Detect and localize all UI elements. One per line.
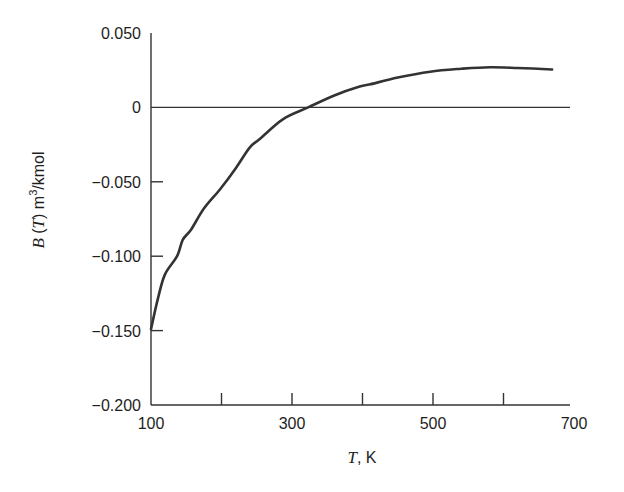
x-tick-label: 500 [420,415,447,432]
y-label-var: B [29,238,48,249]
y-axis-label: B (T) m3/kmol [27,151,48,248]
x-tick-labels: 100300500700 [138,415,588,432]
x-tick-label: 700 [561,415,588,432]
x-axis-label: T, K [347,448,376,467]
x-label-unit: , K [357,449,377,466]
y-tick-label: 0 [132,99,141,116]
y-tick-label: −0.050 [92,174,141,191]
y-ticks [151,182,163,331]
y-label-unit-rest: /kmol [30,151,47,189]
y-tick-label: 0.050 [101,25,141,42]
y-tick-label: −0.100 [92,248,141,265]
y-tick-label: −0.150 [92,323,141,340]
axes [151,33,570,405]
x-ticks [222,393,504,405]
y-label-unit-base: m [30,196,47,209]
y-tick-labels: 0.0500−0.050−0.100−0.150−0.200 [92,25,141,414]
virial-coefficient-chart: 100300500700 0.0500−0.050−0.100−0.150−0.… [0,0,624,492]
y-label-paren-close: ) [30,209,47,219]
x-tick-label: 100 [138,415,165,432]
y-tick-label: −0.200 [92,397,141,414]
b-of-t-curve [151,67,552,329]
x-tick-label: 300 [279,415,306,432]
